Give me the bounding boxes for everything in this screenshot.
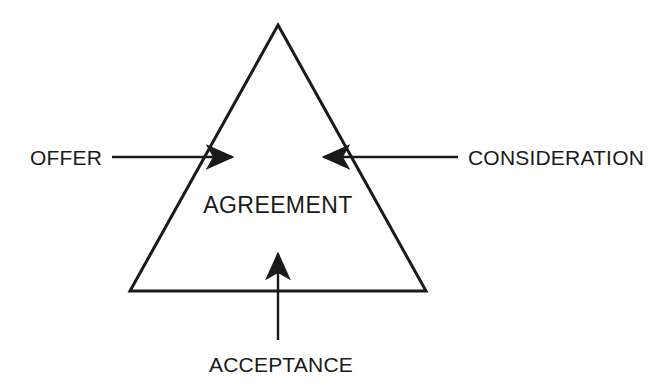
label-acceptance: ACCEPTANCE — [209, 353, 353, 376]
diagram-canvas: OFFER CONSIDERATION AGREEMENT ACCEPTANCE — [0, 0, 662, 385]
label-consideration: CONSIDERATION — [468, 146, 644, 169]
label-agreement: AGREEMENT — [203, 192, 352, 218]
agreement-triangle-diagram: OFFER CONSIDERATION AGREEMENT ACCEPTANCE — [0, 0, 662, 385]
label-offer: OFFER — [30, 146, 102, 169]
